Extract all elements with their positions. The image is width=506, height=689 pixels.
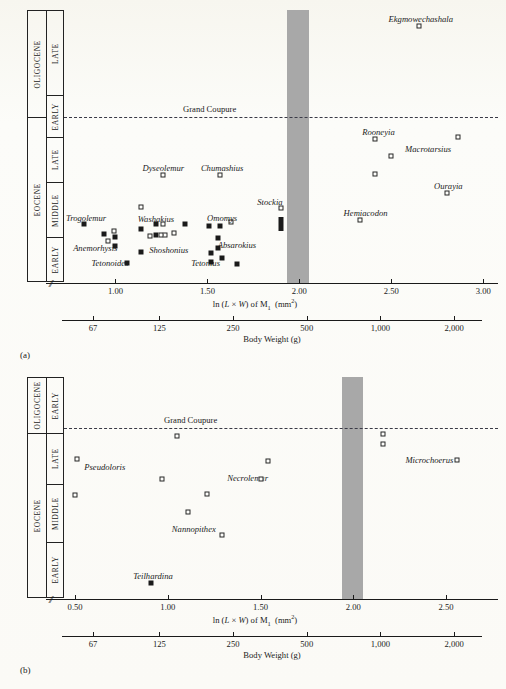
strat-age-label: MIDDLE <box>51 497 60 530</box>
grand-coupure-label-b: Grand Coupure <box>164 415 217 425</box>
grey-band-b <box>342 377 362 599</box>
x-axis-line-b <box>46 599 498 600</box>
panel-b: OLIGOCENE EOCENE EARLY LATE MIDDLE EARLY <box>0 0 506 689</box>
weight-axis-tick-label: 250 <box>227 639 240 649</box>
x-axis-tick-label: 1.00 <box>160 602 175 612</box>
weight-axis-line-b <box>62 636 482 637</box>
weight-axis-tick <box>93 632 94 636</box>
weight-axis-tick <box>307 632 308 636</box>
strat-cell-epoch: EOCENE <box>28 434 46 598</box>
weight-axis-tick <box>454 632 455 636</box>
data-point <box>204 492 209 497</box>
weight-axis-tick-label: 2,000 <box>444 639 463 649</box>
data-point <box>381 432 386 437</box>
taxon-label: Pseudoloris <box>84 462 125 472</box>
strat-cell-age: EARLY <box>47 543 63 598</box>
weight-axis-tick <box>159 632 160 636</box>
strat-age-label: EARLY <box>51 392 60 419</box>
data-point-pseudoloris <box>74 457 79 462</box>
strat-column-age-b: EARLY LATE MIDDLE EARLY <box>46 377 64 598</box>
data-point-nannopithex <box>186 510 191 515</box>
x-axis-tick <box>446 595 447 599</box>
strat-age-label: EARLY <box>51 556 60 583</box>
x-axis-tick <box>353 595 354 599</box>
strat-cell-epoch: OLIGOCENE <box>28 378 46 434</box>
strat-cell-age: EARLY <box>47 378 63 434</box>
weight-axis-tick-label: 1,000 <box>371 639 390 649</box>
x-axis-tick <box>75 595 76 599</box>
strat-cell-age: MIDDLE <box>47 485 63 542</box>
weight-axis-tick <box>233 632 234 636</box>
x-axis-title-b: ln (L × W) of M1 (mm2) <box>213 613 297 627</box>
x-axis-tick-label: 0.50 <box>68 602 83 612</box>
grand-coupure-line-b <box>64 428 498 429</box>
strat-age-label: LATE <box>51 448 60 469</box>
x-axis-tick <box>261 595 262 599</box>
data-point <box>258 477 263 482</box>
taxon-label: Nannopithex <box>172 524 216 534</box>
data-point <box>381 442 386 447</box>
strat-cell-age: LATE <box>47 434 63 486</box>
taxon-label: Microchoerus <box>405 455 453 465</box>
data-point <box>175 434 180 439</box>
weight-axis-tick <box>380 632 381 636</box>
data-point-teilhardina <box>149 581 154 586</box>
x-axis-tick-label: 2.00 <box>346 602 361 612</box>
x-axis-tick-label: 2.50 <box>439 602 454 612</box>
weight-axis-tick-label: 125 <box>153 639 166 649</box>
data-point <box>219 533 224 538</box>
taxon-label: Teilhardina <box>133 571 172 581</box>
axis-break-mark-b: // <box>49 594 51 605</box>
strat-epoch-label: EOCENE <box>33 499 42 532</box>
figure-page: OLIGOCENE EOCENE LATE EARLY LATE MIDDLE … <box>0 0 506 689</box>
weight-axis-title-b: Body Weight (g) <box>243 650 300 660</box>
strat-column-epoch-b: OLIGOCENE EOCENE <box>27 377 46 598</box>
x-axis-tick <box>168 595 169 599</box>
panel-letter-b: (b) <box>20 665 31 675</box>
data-point-microchoerus <box>455 458 460 463</box>
strat-epoch-label: OLIGOCENE <box>33 381 42 430</box>
weight-axis-tick-label: 67 <box>89 639 98 649</box>
data-point-necrolemur <box>266 459 271 464</box>
x-axis-tick-label: 1.50 <box>253 602 268 612</box>
data-point <box>160 477 165 482</box>
weight-axis-tick-label: 500 <box>300 639 313 649</box>
plot-area-b: Grand Coupure MicrochoerusPseudolorisNec… <box>64 377 498 598</box>
data-point <box>73 493 78 498</box>
